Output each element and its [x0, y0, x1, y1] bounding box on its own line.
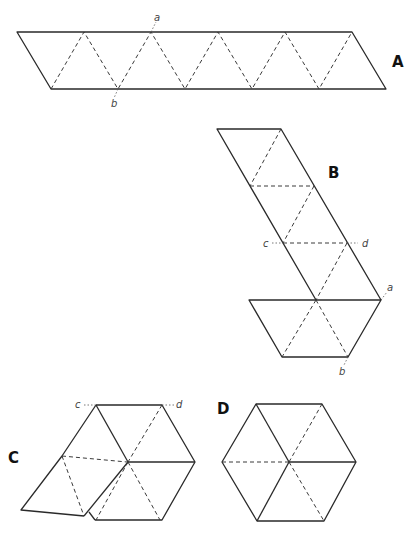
point-label-a: a	[154, 12, 160, 23]
point-label-d: d	[362, 238, 369, 249]
point-label-b: b	[339, 366, 345, 377]
figure-c-partial-fold: c d C	[8, 399, 195, 520]
point-label-c: c	[75, 399, 81, 410]
point-label-d: d	[176, 399, 183, 410]
figure-b-net: c d a b B	[217, 129, 393, 377]
figure-d-hexagon: D	[217, 400, 356, 521]
point-label-b: b	[111, 98, 117, 109]
point-label-c: c	[263, 238, 269, 249]
point-label-a: a	[387, 282, 393, 293]
figure-label-c: C	[8, 449, 19, 467]
figure-label-a: A	[392, 53, 404, 71]
figure-label-d: D	[217, 400, 229, 418]
figure-label-b: B	[328, 164, 339, 182]
folding-diagram: a b A c d a b B c	[0, 0, 410, 534]
figure-a-strip: a b A	[17, 12, 404, 109]
